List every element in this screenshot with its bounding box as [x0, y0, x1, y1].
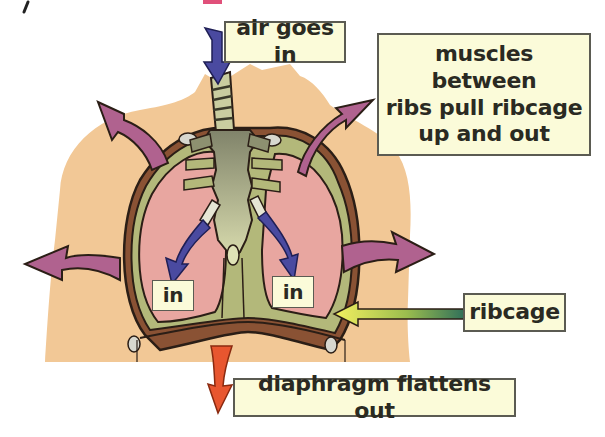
ribcage-label: ribcage [463, 293, 566, 332]
ribcage-text: ribcage [469, 299, 560, 326]
right-lung-in-text: in [283, 280, 304, 304]
diaphragm-label: diaphragm flattens out [233, 378, 516, 417]
muscles-line-3: up and out [418, 121, 549, 148]
diaphragm-text: diaphragm flattens out [235, 371, 514, 425]
muscles-line-2: ribs pull ribcage [386, 95, 583, 122]
left-lung-in-text: in [163, 283, 184, 307]
muscles-line-1: muscles between [379, 41, 589, 95]
breathing-diagram: air goes in muscles between ribs pull ri… [0, 0, 605, 437]
top-pink-mark [203, 0, 222, 4]
left-lung-in-label: in [152, 280, 194, 311]
cropped-text-mark [24, 2, 28, 12]
air-goes-in-text: air goes in [226, 15, 344, 69]
right-lung-in-label: in [272, 276, 314, 308]
air-goes-in-label: air goes in [224, 21, 346, 63]
muscles-label: muscles between ribs pull ribcage up and… [377, 33, 591, 156]
